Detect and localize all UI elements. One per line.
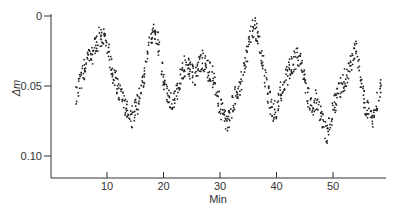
data-point	[336, 104, 338, 106]
data-point	[125, 98, 127, 100]
data-point	[135, 105, 137, 107]
data-point	[250, 25, 252, 27]
data-point	[335, 94, 337, 96]
data-point	[256, 26, 258, 28]
data-point	[189, 71, 191, 73]
data-point	[319, 119, 321, 121]
data-point	[373, 111, 375, 113]
data-point	[294, 52, 296, 54]
data-point	[212, 65, 214, 67]
data-point	[337, 93, 339, 95]
data-point	[220, 99, 222, 101]
data-point	[363, 98, 365, 100]
data-point	[327, 127, 329, 129]
data-point	[157, 51, 159, 53]
data-point	[264, 69, 266, 71]
data-point	[176, 88, 178, 90]
data-point	[212, 77, 214, 79]
data-point	[233, 107, 235, 109]
data-point	[289, 78, 291, 80]
data-point	[136, 94, 138, 96]
data-point	[315, 89, 317, 91]
data-point	[154, 31, 156, 33]
data-point	[270, 113, 272, 115]
data-point	[126, 104, 128, 106]
data-point	[202, 62, 204, 64]
data-point	[276, 116, 278, 118]
data-point	[250, 41, 252, 43]
data-point	[111, 76, 113, 78]
data-point	[273, 118, 275, 120]
data-point	[205, 64, 207, 66]
data-point	[333, 109, 335, 111]
data-point	[347, 70, 349, 72]
data-point	[301, 71, 303, 73]
data-point	[113, 80, 115, 82]
data-point	[279, 89, 281, 91]
data-point	[168, 90, 170, 92]
data-point	[116, 88, 118, 90]
data-point	[274, 109, 276, 111]
data-point	[271, 115, 273, 117]
data-point	[173, 106, 175, 108]
data-point	[333, 95, 335, 97]
data-point	[166, 93, 168, 95]
y-tick-label: 0	[36, 10, 42, 22]
data-point	[229, 112, 231, 114]
data-point	[87, 54, 89, 56]
data-point	[356, 43, 358, 45]
data-point	[83, 59, 85, 61]
data-point	[266, 77, 268, 79]
data-point	[78, 80, 80, 82]
data-point	[240, 83, 242, 85]
data-point	[340, 77, 342, 79]
data-point	[208, 75, 210, 77]
data-point	[260, 52, 262, 54]
data-point	[363, 90, 365, 92]
data-point	[254, 20, 256, 22]
data-point	[80, 72, 82, 74]
data-point	[159, 41, 161, 43]
data-point	[151, 38, 153, 40]
data-point	[185, 61, 187, 63]
data-point	[312, 114, 314, 116]
data-point	[174, 102, 176, 104]
data-point	[157, 31, 159, 33]
data-point	[185, 64, 187, 66]
data-point	[171, 103, 173, 105]
data-point	[328, 117, 330, 119]
data-point	[143, 85, 145, 87]
data-point	[130, 114, 132, 116]
data-point	[217, 105, 219, 107]
data-point	[169, 97, 171, 99]
data-point	[316, 92, 318, 94]
data-point	[268, 85, 270, 87]
data-point	[316, 99, 318, 101]
data-point	[316, 102, 318, 104]
data-point	[125, 112, 127, 114]
data-point	[274, 100, 276, 102]
data-point	[366, 101, 368, 103]
data-point	[237, 88, 239, 90]
data-point	[258, 36, 260, 38]
data-point	[264, 75, 266, 77]
data-point	[77, 92, 79, 94]
data-point	[80, 74, 82, 76]
data-point	[177, 83, 179, 85]
data-point	[148, 42, 150, 44]
data-point	[356, 51, 358, 53]
data-point	[368, 108, 370, 110]
data-point	[353, 47, 355, 49]
data-point	[228, 116, 230, 118]
data-point	[197, 68, 199, 70]
data-point	[189, 63, 191, 65]
data-point	[212, 86, 214, 88]
data-point	[332, 102, 334, 104]
data-point	[348, 62, 350, 64]
data-point	[376, 92, 378, 94]
data-point	[188, 59, 190, 61]
data-point	[110, 69, 112, 71]
data-point	[237, 97, 239, 99]
data-point	[120, 90, 122, 92]
data-point	[241, 80, 243, 82]
